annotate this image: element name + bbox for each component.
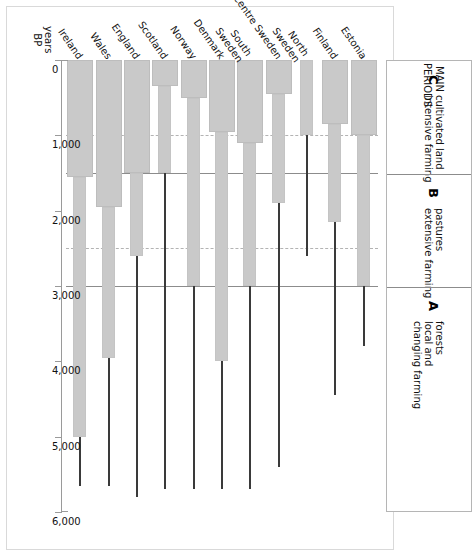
bar-segment-thin xyxy=(363,286,365,346)
bar-segment-thin xyxy=(108,358,110,486)
legend-period-line2: intensive farming xyxy=(423,95,434,183)
x-tick-label: 2,000 xyxy=(52,215,81,226)
x-tick-label: 1,000 xyxy=(52,139,81,150)
x-axis-cap-left xyxy=(61,60,68,61)
bar-segment-thick xyxy=(322,60,348,124)
legend-cell-B: Bpasturesextensive farming xyxy=(387,174,471,287)
bar-segment-thin xyxy=(334,222,336,395)
x-tick-2000 xyxy=(55,211,62,212)
x-tick-5000 xyxy=(55,437,62,438)
bar-segment-thick xyxy=(266,60,292,94)
legend-period-text: forestslocal andchanging farming xyxy=(412,321,445,409)
bar-segment-medium xyxy=(243,143,256,286)
legend-period-line1: forests xyxy=(434,321,445,409)
figure-frame: MAIN PERIODS Ccultivated landintensive f… xyxy=(6,6,394,550)
rotated-chart-stage: MAIN PERIODS Ccultivated landintensive f… xyxy=(14,24,386,536)
legend-period-letter: A xyxy=(426,301,441,311)
bar-segment-thin xyxy=(221,361,223,489)
bar-row xyxy=(266,60,292,512)
plot-area xyxy=(66,60,378,512)
legend-period-letter: C xyxy=(426,75,441,85)
bar-segment-medium xyxy=(130,173,143,256)
legend-cell-A: Aforestslocal andchanging farming xyxy=(387,287,471,513)
bar-segment-thin xyxy=(249,286,251,489)
bar-row xyxy=(294,60,320,512)
legend-period-text: cultivated landintensive farming xyxy=(423,95,445,183)
bar-segment-medium xyxy=(102,207,115,358)
bar-row xyxy=(181,60,207,512)
bar-segment-medium xyxy=(187,98,200,286)
axis-title-line2: BP xyxy=(32,33,43,46)
bar-segment-thick xyxy=(124,60,150,173)
legend-period-letter: B xyxy=(426,188,441,198)
bar-segment-medium xyxy=(215,132,228,362)
legend-period-line2: local and xyxy=(423,321,434,409)
bar-segment-thin xyxy=(136,256,138,497)
x-tick-3000 xyxy=(55,286,62,287)
legend-period-line1: pastures xyxy=(434,208,445,298)
legend-period-line3: changing farming xyxy=(412,321,423,409)
x-tick-6000 xyxy=(55,512,62,513)
bar-segment-medium xyxy=(300,60,313,135)
x-axis-title: years BP xyxy=(32,26,54,54)
x-tick-4000 xyxy=(55,361,62,362)
bar-segment-medium xyxy=(158,86,171,173)
bar-segment-medium xyxy=(328,124,341,222)
x-tick-label: 4,000 xyxy=(52,365,81,376)
bar-segment-thick xyxy=(237,60,263,143)
x-tick-label: 0 xyxy=(52,64,58,75)
bar-segment-thick xyxy=(96,60,122,207)
bar-segment-thin xyxy=(193,286,195,489)
x-tick-1000 xyxy=(55,135,62,136)
x-tick-label: 5,000 xyxy=(52,441,81,452)
bar-row xyxy=(209,60,235,512)
bar-segment-medium xyxy=(357,135,370,286)
x-tick-label: 3,000 xyxy=(52,290,81,301)
bar-segment-thin xyxy=(278,203,280,467)
bar-segment-thick xyxy=(152,60,178,86)
legend-period-line2: extensive farming xyxy=(423,208,434,298)
axis-title-line1: years xyxy=(43,26,54,54)
bar-segment-thin xyxy=(164,173,166,489)
bar-row xyxy=(237,60,263,512)
main-periods-legend: MAIN PERIODS Ccultivated landintensive f… xyxy=(386,60,472,512)
legend-period-line1: cultivated land xyxy=(434,95,445,183)
legend-cell-C: Ccultivated landintensive farming xyxy=(387,61,471,174)
bar-segment-thick xyxy=(67,60,93,177)
bar-row xyxy=(322,60,348,512)
bar-segment-thick xyxy=(209,60,235,132)
bar-segment-thick xyxy=(351,60,377,135)
bar-segment-thick xyxy=(181,60,207,98)
bar-row xyxy=(124,60,150,512)
x-tick-label: 6,000 xyxy=(52,516,81,527)
bar-segment-medium xyxy=(272,94,285,203)
bar-row xyxy=(351,60,377,512)
x-tick-0 xyxy=(55,60,62,61)
bar-segment-thin xyxy=(306,135,308,256)
x-axis-cap-right xyxy=(61,511,68,512)
bar-row xyxy=(96,60,122,512)
legend-period-text: pasturesextensive farming xyxy=(423,208,445,298)
bar-row xyxy=(152,60,178,512)
